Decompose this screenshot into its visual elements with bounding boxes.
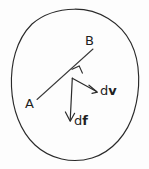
chord-line-a-to-b (37, 49, 93, 100)
label-vector-dv: dv (100, 84, 117, 97)
vector-dv-arrowhead (89, 85, 97, 93)
vector-dv-shaft (72, 78, 96, 91)
closed-loop-boundary (11, 9, 138, 160)
label-point-b: B (85, 34, 94, 47)
label-point-a: A (25, 97, 34, 110)
vector-diagram-figure: A B dv df (0, 0, 149, 169)
label-vector-dv-symbol: v (108, 83, 116, 98)
label-vector-df-symbol: f (82, 113, 88, 128)
vector-df-shaft (70, 78, 72, 120)
diagram-canvas (0, 0, 149, 169)
label-vector-df: df (74, 114, 88, 127)
